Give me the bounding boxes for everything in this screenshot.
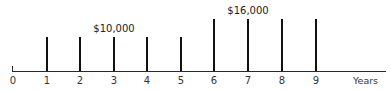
x-tick-label: 2: [77, 75, 83, 86]
x-tick-label: 6: [211, 75, 217, 86]
time-axis: [12, 71, 386, 72]
x-tick-label: 1: [44, 75, 50, 86]
axis-unit-label: Years: [353, 75, 378, 86]
x-tick-label: 9: [313, 75, 319, 86]
x-tick-label: 3: [111, 75, 117, 86]
amount-label-10000: $10,000: [93, 23, 134, 34]
cash-flow-bar-year-2: [79, 37, 81, 71]
cash-flow-bar-year-1: [46, 37, 48, 71]
cash-flow-bar-year-4: [146, 37, 148, 71]
cash-flow-bar-year-7: [247, 19, 249, 71]
cash-flow-bar-year-3: [113, 37, 115, 71]
x-tick-label: 7: [245, 75, 251, 86]
x-tick-label: 5: [178, 75, 184, 86]
x-tick-label: 4: [144, 75, 150, 86]
year-zero-tick: [12, 66, 13, 72]
x-tick-label: 8: [279, 75, 285, 86]
cash-flow-bar-year-6: [213, 19, 215, 71]
cash-flow-bar-year-9: [315, 19, 317, 71]
amount-label-16000: $16,000: [227, 5, 268, 16]
cash-flow-bar-year-8: [281, 19, 283, 71]
cash-flow-diagram: $10,000 $16,000 0 1 2 3 4 5 6 7 8 9 Year…: [0, 0, 391, 91]
cash-flow-bar-year-5: [180, 37, 182, 71]
x-tick-label: 0: [10, 75, 16, 86]
